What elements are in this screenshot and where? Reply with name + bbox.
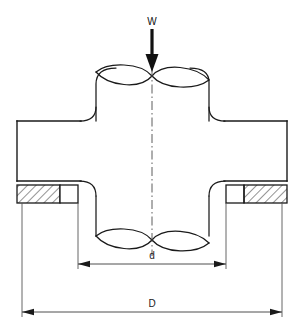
D-arrowhead-right (270, 309, 282, 315)
technical-drawing-figure: W d D (0, 0, 303, 333)
left-hatch-clear-gap (60, 185, 78, 203)
load-label: W (147, 16, 157, 27)
d-arrowhead-left (78, 261, 90, 267)
right-hatched-section (226, 185, 287, 203)
shaft-lower (80, 181, 225, 251)
D-arrowhead-left (22, 309, 34, 315)
shaft-upper-right-outline (190, 68, 209, 121)
left-hatch-fill (17, 185, 60, 203)
shaft-lower-left-fillet (80, 181, 96, 196)
left-hatched-section (17, 185, 78, 203)
d-dimension-label: d (149, 250, 155, 261)
drawing-canvas: W d D (0, 0, 303, 333)
D-dimension-label: D (148, 298, 155, 309)
shaft-upper (80, 65, 225, 121)
right-hatch-clear-gap (226, 185, 244, 203)
load-arrow-head (146, 54, 159, 72)
shaft-upper-left-outline (96, 68, 116, 121)
d-arrowhead-right (214, 261, 226, 267)
right-hatch-fill (244, 185, 287, 203)
shaft-bottom-ellipse-lower-arc (96, 231, 209, 249)
shaft-upper-right-fillet (209, 107, 225, 121)
shaft-lower-right-fillet (209, 181, 225, 196)
load-arrow (146, 29, 159, 72)
shaft-upper-left-fillet (80, 107, 96, 121)
